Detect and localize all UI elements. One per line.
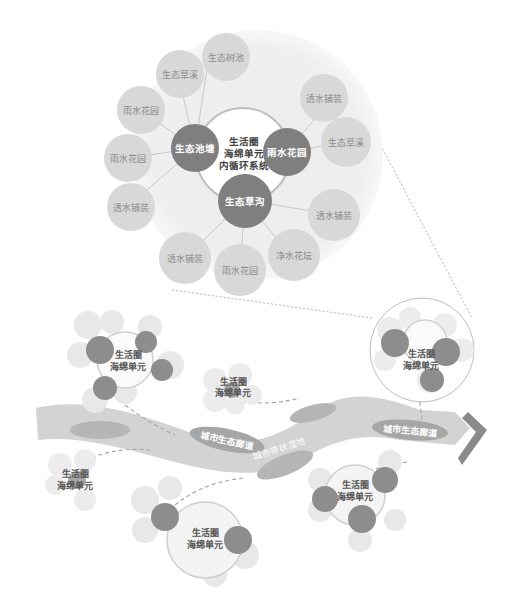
svg-text:雨水花园: 雨水花园	[110, 153, 146, 164]
svg-text:海绵单元: 海绵单元	[215, 387, 251, 398]
unit-flower: 生活圈 海绵单元	[67, 310, 184, 413]
svg-text:生态树池: 生态树池	[208, 52, 244, 63]
svg-text:生活圈: 生活圈	[62, 468, 89, 479]
svg-text:海绵单元: 海绵单元	[337, 491, 373, 502]
river-corridor: 城市生态廊道 城市带状湿地 城市生态廊道	[36, 396, 487, 485]
svg-text:海绵单元: 海绵单元	[403, 360, 439, 371]
satellite-node: 生态草溪	[321, 117, 371, 167]
satellite-node: 雨水花园	[214, 244, 266, 296]
core-node: 雨水花园	[263, 128, 311, 176]
svg-text:海绵单元: 海绵单元	[110, 361, 146, 372]
svg-text:生活圈: 生活圈	[342, 479, 369, 490]
unit-flower: 生活圈 海绵单元	[308, 450, 406, 552]
svg-text:净水花坛: 净水花坛	[276, 250, 312, 261]
svg-text:透水铺装: 透水铺装	[306, 93, 342, 104]
svg-text:生态草溪: 生态草溪	[162, 69, 198, 80]
svg-text:生态草沟: 生态草沟	[225, 196, 265, 207]
unit-flower: 生活圈 海绵单元	[131, 476, 259, 587]
satellite-node: 雨水花园	[104, 134, 152, 182]
core-node: 生态池塘	[171, 124, 219, 172]
svg-text:生活圈: 生活圈	[408, 348, 435, 359]
satellite-node: 雨水花园	[117, 86, 165, 134]
satellite-node: 透水铺装	[107, 183, 155, 231]
svg-text:雨水花园: 雨水花园	[123, 105, 159, 116]
svg-text:透水铺装: 透水铺装	[316, 210, 352, 221]
zoom-diagram: 生态树池 生态草溪 雨水花园 雨水花园 透水铺装 透水铺装 雨水花园 净水花坛 …	[104, 30, 383, 296]
center-label-line1: 生活圈	[229, 136, 259, 147]
zoomed-unit: 生活圈 海绵单元	[370, 298, 474, 402]
satellite-node: 透水铺装	[308, 189, 360, 241]
svg-text:海绵单元: 海绵单元	[57, 480, 93, 491]
svg-text:透水铺装: 透水铺装	[113, 202, 149, 213]
center-label-line2: 海绵单元	[224, 148, 264, 159]
center-label-line3: 内循环系统	[219, 160, 269, 171]
svg-text:生活圈: 生活圈	[220, 376, 247, 387]
unit-flower: 生活圈 海绵单元	[203, 363, 262, 415]
unit-flower: 生活圈 海绵单元	[45, 449, 96, 511]
svg-text:雨水花园: 雨水花园	[267, 147, 307, 158]
svg-text:透水铺装: 透水铺装	[167, 253, 203, 264]
svg-text:生态草溪: 生态草溪	[328, 137, 364, 148]
satellite-node: 生态草溪	[156, 50, 204, 98]
svg-text:生活圈: 生活圈	[115, 349, 142, 360]
sponge-unit-diagram: 生态树池 生态草溪 雨水花园 雨水花园 透水铺装 透水铺装 雨水花园 净水花坛 …	[0, 0, 513, 607]
satellite-node: 透水铺装	[159, 232, 211, 284]
svg-text:生活圈: 生活圈	[192, 527, 219, 538]
satellite-node: 生态树池	[202, 33, 250, 81]
core-node: 生态草沟	[218, 174, 272, 228]
satellite-node: 净水花坛	[268, 229, 320, 281]
satellite-node: 透水铺装	[300, 74, 348, 122]
svg-text:生态池塘: 生态池塘	[175, 143, 215, 154]
svg-text:雨水花园: 雨水花园	[222, 265, 258, 276]
svg-text:海绵单元: 海绵单元	[187, 539, 223, 550]
